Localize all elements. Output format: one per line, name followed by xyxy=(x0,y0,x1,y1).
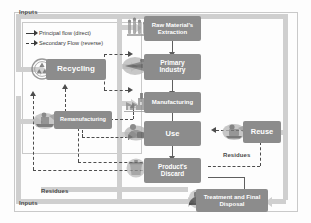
node-reuse[interactable]: Reuse xyxy=(244,122,280,142)
circular-economy-diagram: Principal flow (direct) Secondary Flow (… xyxy=(0,0,311,223)
flow-discard-to-reuse-v xyxy=(260,142,261,166)
legend: Principal flow (direct) Secondary Flow (… xyxy=(26,28,138,48)
reuse-icon xyxy=(222,121,246,141)
flow-remanufacturing-to-recycling-arrow xyxy=(62,84,68,89)
flow-remanufacturing-to-manufacturing-h xyxy=(110,119,133,120)
flow-remanufacturing-to-use xyxy=(82,137,128,138)
node-manufacturing[interactable]: Manufacturing xyxy=(145,93,200,112)
flow-discard-to-reuse-h xyxy=(208,166,260,167)
node-label-line2: Discard xyxy=(161,170,184,177)
node-remanufacturing[interactable]: Remanufacturing xyxy=(55,112,111,128)
node-label: Manufacturing xyxy=(152,99,193,105)
band-label-residues-left: Residues xyxy=(41,188,68,194)
inputs-band-left-vertical-lower xyxy=(16,96,21,200)
solid-arrow-icon xyxy=(26,30,39,36)
inputs-band-left-vertical xyxy=(16,14,21,72)
node-label-line1: Treatment and Final xyxy=(204,194,261,200)
node-use[interactable]: Use xyxy=(145,122,200,145)
flow-remanufacturing-to-recycling xyxy=(65,89,66,112)
node-raw-materials-extraction[interactable]: Raw Material's Extraction xyxy=(145,17,200,40)
node-label: Use xyxy=(166,130,180,138)
node-label-line2: Extraction xyxy=(158,29,187,35)
legend-label-secondary-flow: Secondary Flow (reverse) xyxy=(39,40,103,46)
node-label-line2: Disposal xyxy=(219,201,244,207)
flow-reuse-to-use-arrow xyxy=(211,127,216,133)
remanufacturing-icon xyxy=(33,110,57,130)
band-label-residues-right: Residues xyxy=(223,152,250,158)
band-label-inputs-top: Inputs xyxy=(19,9,38,15)
flow-discard-to-recycling-v xyxy=(33,96,34,170)
node-label-line2: Industry xyxy=(159,66,185,73)
node-products-discard[interactable]: Product's Discard xyxy=(145,159,200,182)
legend-label-principal-flow: Principal flow (direct) xyxy=(39,30,91,36)
return-band-right-vertical xyxy=(283,14,288,200)
flow-discard-to-treatment-h xyxy=(208,177,244,178)
node-label: Recycling xyxy=(57,65,95,73)
node-recycling[interactable]: Recycling xyxy=(47,60,105,79)
node-treatment-and-final-disposal[interactable]: Treatment and Final Disposal xyxy=(197,190,267,211)
dashed-arrow-icon xyxy=(26,40,39,46)
flow-discard-to-remanufacturing-v xyxy=(78,128,79,162)
node-label: Reuse xyxy=(251,128,274,136)
return-band-to-treatment xyxy=(272,199,286,204)
legend-item-secondary-flow: Secondary Flow (reverse) xyxy=(26,38,138,48)
node-label: Remanufacturing xyxy=(60,117,106,123)
inputs-band-bottom xyxy=(16,199,188,204)
band-label-inputs-bottom: Inputs xyxy=(19,200,38,206)
node-primary-industry[interactable]: Primary Industry xyxy=(145,55,200,79)
node-label-line1: Raw Material's xyxy=(152,22,193,28)
flow-discard-to-recycling-arrow xyxy=(30,91,36,96)
flow-recycling-to-manufacturing xyxy=(104,90,128,91)
legend-item-principal-flow: Principal flow (direct) xyxy=(26,28,138,38)
